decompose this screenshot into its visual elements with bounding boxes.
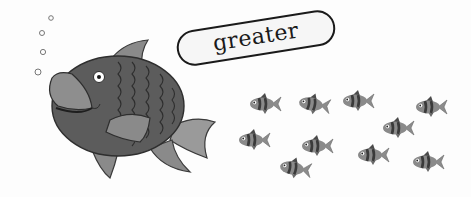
small-fish-icon (279, 155, 313, 180)
bubble-icons (35, 16, 53, 75)
small-fish-icon (250, 93, 281, 114)
small-fish-icon (302, 135, 333, 156)
small-fish-icon (416, 96, 447, 117)
small-fish-icon (298, 91, 332, 116)
illustration-stage: greater (0, 0, 471, 197)
small-fish-icon (413, 151, 444, 172)
small-fish-icon (343, 90, 374, 111)
small-fish-icon (383, 117, 414, 138)
small-fish-icon (239, 129, 270, 150)
small-fish-icon (358, 144, 389, 165)
small-fish-group (239, 90, 447, 181)
